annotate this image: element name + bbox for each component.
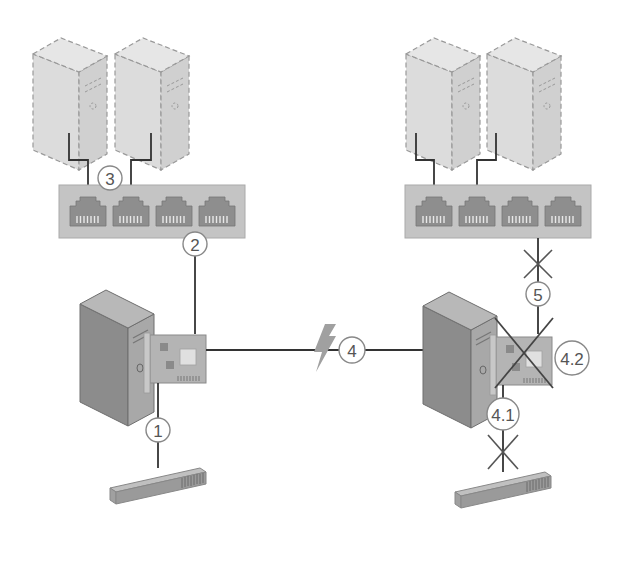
step-label-4: 4 — [347, 342, 356, 361]
right-ghost-server-1[interactable] — [406, 38, 480, 170]
right-bottom-device[interactable] — [455, 472, 551, 508]
left-server[interactable] — [80, 290, 154, 426]
right-site — [405, 38, 591, 508]
step-label-2: 2 — [190, 236, 199, 255]
step-badge-4-1: 4.1 — [487, 398, 519, 430]
step-label-5: 5 — [533, 286, 542, 305]
left-bottom-device[interactable] — [110, 468, 206, 504]
left-ghost-server-2[interactable] — [115, 38, 189, 170]
step-badge-4-2: 4.2 — [555, 341, 589, 375]
step-label-3: 3 — [105, 170, 114, 189]
left-site — [33, 38, 245, 504]
step-badge-3: 3 — [98, 166, 122, 190]
step-badge-4: 4 — [339, 337, 365, 363]
wan-link — [206, 324, 440, 372]
step-badge-2: 2 — [183, 232, 207, 256]
lightning-bolt-icon — [314, 324, 336, 372]
right-switch[interactable] — [405, 185, 591, 238]
network-failover-diagram: 3 2 1 4 5 4.2 4.1 — [0, 0, 617, 565]
right-nic[interactable] — [490, 335, 552, 395]
left-switch[interactable] — [59, 185, 245, 238]
step-label-1: 1 — [153, 422, 162, 441]
step-badge-1: 1 — [146, 418, 170, 442]
step-badge-5: 5 — [526, 282, 550, 306]
right-ghost-server-2[interactable] — [487, 38, 561, 170]
step-label-4-2: 4.2 — [560, 350, 584, 369]
right-server[interactable] — [423, 292, 497, 428]
left-ghost-server-1[interactable] — [33, 38, 107, 170]
step-label-4-1: 4.1 — [491, 406, 515, 425]
